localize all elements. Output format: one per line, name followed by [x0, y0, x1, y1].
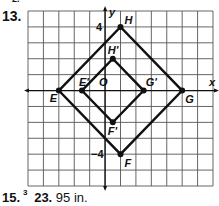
- vertex-point: [141, 88, 147, 94]
- x-axis-label: x: [208, 76, 216, 88]
- vertex-point: [110, 56, 116, 62]
- item-15-fraction: 3: [23, 188, 27, 197]
- item-15-number: 15.: [2, 190, 20, 205]
- item-23-number: 23.: [34, 190, 52, 205]
- vertex-label-F: F: [125, 157, 132, 169]
- footer-answers: 15.3 23. 95 in.: [2, 190, 88, 205]
- vertex-label-G: G: [185, 93, 194, 105]
- vertex-label-G-prime: G': [146, 76, 158, 88]
- item-23-answer: 95 in.: [56, 190, 88, 205]
- vertex-label-H-prime: H': [108, 44, 119, 56]
- vertex-point: [118, 24, 124, 30]
- vertex-label-E: E: [50, 92, 58, 104]
- vertex-label-E-prime: E': [79, 76, 89, 88]
- vertex-label-F-prime: F': [108, 125, 118, 137]
- x-axis-arrow-left-icon: [24, 89, 29, 93]
- coordinate-graph: EHGFE'H'G'F'Oxy4−4: [0, 0, 219, 206]
- tick-label: 4: [96, 21, 103, 33]
- labels: EHGFE'H'G'F'Oxy4−4: [50, 6, 216, 169]
- tick-label: −4: [91, 148, 104, 160]
- vertex-point: [79, 88, 85, 94]
- origin-label: O: [99, 76, 108, 88]
- y-axis-label: y: [108, 6, 116, 18]
- x-axis-arrow-icon: [214, 89, 219, 93]
- y-axis-arrow-down-icon: [103, 186, 107, 191]
- vertex-point: [118, 151, 124, 157]
- vertex-label-H: H: [125, 14, 134, 26]
- y-axis-arrow-icon: [103, 6, 107, 11]
